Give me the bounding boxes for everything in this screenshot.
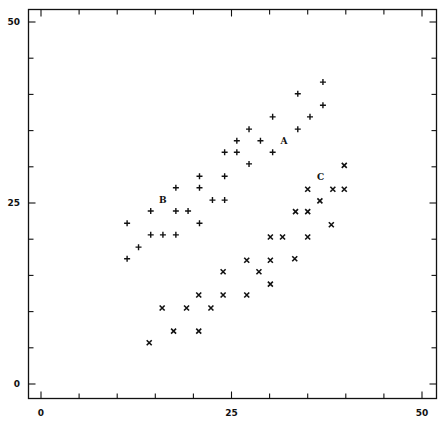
x-marker <box>280 235 285 240</box>
plus-marker <box>196 220 202 226</box>
x-tick-label: 50 <box>416 408 429 418</box>
plus-marker <box>320 102 326 108</box>
axis-tick-labels: 0255002550 <box>7 17 428 418</box>
plus-marker <box>234 149 240 155</box>
scatter-chart: 0255002550 ABC <box>0 0 443 422</box>
y-tick-label: 50 <box>7 17 20 27</box>
x-marker <box>184 305 189 310</box>
x-marker <box>330 187 335 192</box>
plus-marker <box>270 149 276 155</box>
plus-marker <box>270 114 276 120</box>
x-marker <box>305 187 310 192</box>
plus-marker <box>222 173 228 179</box>
series-label-c: C <box>317 172 324 182</box>
plus-marker <box>185 208 191 214</box>
x-marker <box>208 305 213 310</box>
x-marker <box>147 340 152 345</box>
plus-marker <box>160 232 166 238</box>
series-labels: ABC <box>159 136 324 205</box>
x-marker <box>305 235 310 240</box>
plus-marker <box>124 220 130 226</box>
x-tick-label: 0 <box>38 408 44 418</box>
x-marker <box>268 235 273 240</box>
x-marker <box>196 292 201 297</box>
x-marker <box>317 198 322 203</box>
y-tick-label: 0 <box>14 379 20 389</box>
axis-ticks <box>29 10 437 399</box>
plus-marker <box>209 197 215 203</box>
series-a-b <box>124 79 326 262</box>
x-marker <box>244 292 249 297</box>
x-marker <box>256 269 261 274</box>
plus-marker <box>234 138 240 144</box>
series-c <box>147 163 347 345</box>
x-marker <box>268 258 273 263</box>
x-marker <box>244 258 249 263</box>
series-label-a: A <box>280 136 289 146</box>
plus-marker <box>136 244 142 250</box>
x-marker <box>171 329 176 334</box>
x-marker <box>160 305 165 310</box>
x-marker <box>329 222 334 227</box>
plus-marker <box>196 173 202 179</box>
plus-marker <box>222 197 228 203</box>
x-marker <box>293 209 298 214</box>
x-marker <box>268 282 273 287</box>
x-marker <box>342 163 347 168</box>
plus-marker <box>246 161 252 167</box>
plus-marker <box>173 232 179 238</box>
plus-marker <box>307 114 313 120</box>
plus-marker <box>295 91 301 97</box>
plus-marker <box>257 138 263 144</box>
plus-marker <box>246 126 252 132</box>
x-marker <box>292 256 297 261</box>
plus-marker <box>295 126 301 132</box>
plus-marker <box>148 232 154 238</box>
y-tick-label: 25 <box>7 198 20 208</box>
plus-marker <box>173 185 179 191</box>
plus-marker <box>148 208 154 214</box>
plus-marker <box>320 79 326 85</box>
x-marker <box>221 269 226 274</box>
plus-marker <box>222 149 228 155</box>
x-marker <box>305 209 310 214</box>
x-marker <box>221 292 226 297</box>
plot-frame <box>29 10 437 399</box>
x-marker <box>342 187 347 192</box>
series-label-b: B <box>159 195 167 205</box>
x-tick-label: 25 <box>225 408 238 418</box>
x-marker <box>196 329 201 334</box>
data-points <box>124 79 347 345</box>
plus-marker <box>196 185 202 191</box>
plus-marker <box>124 256 130 262</box>
plus-marker <box>173 208 179 214</box>
